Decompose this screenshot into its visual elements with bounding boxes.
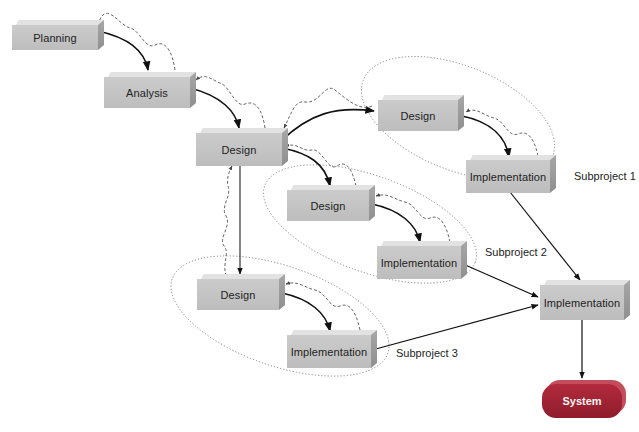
subproject-2-label: Subproject 2 — [485, 246, 547, 258]
analysis-box: Analysis — [104, 72, 196, 108]
arrow-sp2impl-final — [463, 264, 538, 297]
planning-label: Planning — [12, 25, 98, 50]
subproject-1-label: Subproject 1 — [574, 170, 636, 182]
sp3-design-box: Design — [197, 274, 285, 310]
final-implementation-box: Implementation — [540, 280, 630, 320]
subproject-3-outline — [156, 232, 404, 401]
sp2-implementation-label: Implementation — [377, 246, 461, 279]
feedback-sp1design-design — [284, 88, 372, 128]
feedback-analysis-planning — [99, 13, 175, 70]
system-label: System — [542, 384, 622, 418]
arrow-sp3design-sp3impl — [282, 293, 330, 331]
sp3-design-label: Design — [197, 279, 279, 310]
arrow-sp2design-sp2impl — [372, 204, 420, 242]
subproject-3-label: Subproject 3 — [396, 347, 458, 359]
sp3-implementation-box: Implementation — [287, 330, 377, 368]
arrow-sp1design-sp1impl — [462, 116, 509, 157]
analysis-label: Analysis — [104, 77, 190, 108]
system-node: System — [542, 380, 626, 418]
design-main-box: Design — [196, 128, 288, 166]
arrow-sp1impl-final — [510, 192, 580, 280]
arrow-design-sp2design — [282, 148, 330, 186]
final-implementation-label: Implementation — [540, 285, 624, 320]
arrow-design-sp1design — [282, 110, 374, 140]
feedback-design-analysis — [196, 77, 265, 128]
arrow-sp3impl-final — [372, 305, 538, 350]
sp2-design-label: Design — [287, 190, 369, 221]
feedback-sp2impl-sp2design — [376, 195, 450, 242]
planning-box: Planning — [12, 20, 104, 50]
sp2-design-box: Design — [287, 185, 375, 221]
sp1-implementation-box: Implementation — [466, 155, 556, 193]
sp1-design-box: Design — [378, 95, 464, 131]
feedback-sp3design-design — [222, 166, 232, 276]
arrow-analysis-design — [190, 88, 239, 128]
sp1-design-label: Design — [378, 100, 458, 131]
sp3-implementation-label: Implementation — [287, 335, 371, 368]
sp2-implementation-box: Implementation — [377, 241, 467, 279]
sp1-implementation-label: Implementation — [466, 160, 550, 193]
design-main-label: Design — [196, 133, 282, 166]
feedback-sp3impl-sp3design — [286, 283, 360, 330]
incremental-model-diagram: Planning Analysis Design Design Implemen… — [0, 0, 639, 432]
feedback-sp1impl-sp1design — [466, 110, 538, 156]
